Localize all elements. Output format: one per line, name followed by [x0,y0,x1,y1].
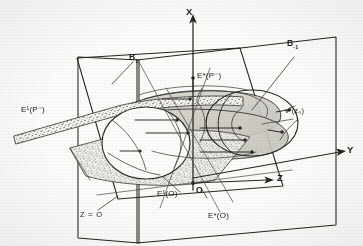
plane-label-z-equals-zero: Z = O [80,210,103,219]
set-label-e1-o: E¹(O) [157,189,178,198]
vector-label-v-z0: v¹(z₀) [285,106,304,115]
plane-label-bm1: B-1 [287,38,298,50]
set-label-estar-o: E*(O) [208,211,229,220]
axis-label-y: Y [347,144,354,155]
set-label-estar-p-minus: E*(P⁻) [197,71,221,80]
axis-label-x: X [186,6,193,17]
plane-label-b1: B1 [129,52,138,64]
origin-label: O [196,185,203,195]
set-label-e1-p-minus: E¹(P⁻) [21,105,45,114]
diagram-svg [0,0,363,246]
left-ellipsoid [102,107,190,179]
figure-canvas: X Y Z O B1 B-1 Z = O E¹(P⁻) E*(P⁻) E¹(O)… [0,0,363,246]
axis-label-z: Z [277,172,283,183]
plane-label-b1-sub: 1 [135,58,138,64]
plane-label-bm1-sub: -1 [293,44,298,50]
